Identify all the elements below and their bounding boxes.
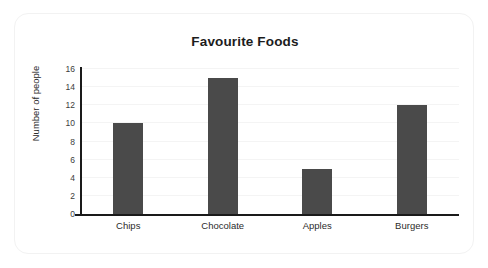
bar [208,78,238,214]
screenshot-root: Favourite Foods Number of people 0246810… [0,0,488,268]
x-axis-line [75,214,459,216]
x-axis-tick-labels: ChipsChocolateApplesBurgers [81,220,459,240]
y-axis-title: Number of people [30,44,41,164]
x-tick-label: Chips [116,220,140,231]
chart-card: Favourite Foods Number of people 0246810… [14,13,474,254]
bar [397,105,427,214]
x-tick-label: Chocolate [201,220,244,231]
y-tick-label: 4 [55,174,75,183]
y-tick-label: 6 [55,155,75,164]
x-tick-label: Burgers [395,220,428,231]
gridline [81,86,459,87]
plot-area [81,69,459,214]
y-tick-label: 16 [55,65,75,74]
bar [113,123,143,214]
bar [302,169,332,214]
y-tick-label: 8 [55,137,75,146]
x-tick-label: Apples [303,220,332,231]
y-axis-tick-labels: 0246810121416 [51,69,75,214]
y-tick-label: 10 [55,119,75,128]
y-tick-label: 0 [55,210,75,219]
gridline [81,68,459,69]
y-tick-label: 12 [55,101,75,110]
y-tick-label: 14 [55,83,75,92]
chart-title: Favourite Foods [15,34,475,49]
y-axis-line [80,67,82,215]
y-tick-label: 2 [55,192,75,201]
